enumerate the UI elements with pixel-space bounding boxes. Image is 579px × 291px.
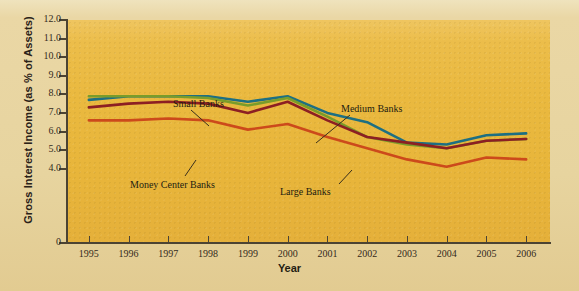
x-axis-title: Year [0, 262, 579, 274]
annotation-label-large-banks: Large Banks [280, 186, 331, 197]
annotation-label-small-banks: Small Banks [173, 98, 224, 109]
annotation-label-medium-banks: Medium Banks [341, 103, 402, 114]
chart-figure: Gross Interest Income (as % of Assets) 1… [0, 0, 579, 291]
annotation-leaders [0, 0, 579, 291]
annotation-label-money-center-banks: Money Center Banks [130, 179, 215, 190]
